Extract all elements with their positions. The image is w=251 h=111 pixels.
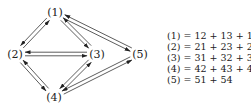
- node-4: (4): [46, 91, 62, 104]
- equation-2: (2) = 21 + 23 + 24: [167, 41, 251, 52]
- state-graph: (1)(2)(3)(4)(5): [0, 0, 160, 111]
- node-3: (3): [89, 48, 105, 61]
- edge-5-to-4-arrow: [62, 57, 130, 91]
- node-5: (5): [132, 48, 148, 61]
- edge-2-to-1-arrow: [23, 20, 49, 48]
- edge-1-to-2-arrow: [21, 18, 47, 46]
- edge-3-to-1-arrow: [63, 18, 91, 46]
- edge-4-to-2-arrow: [23, 60, 49, 88]
- edge-3-to-4-arrow: [60, 60, 89, 89]
- equation-list: (1) = 12 + 13 + 15 (2) = 21 + 23 + 24 (3…: [167, 30, 251, 85]
- edge-4-to-3-arrow: [62, 62, 91, 91]
- equation-5: (5) = 51 + 54: [167, 74, 251, 85]
- edges-group: [20, 15, 131, 94]
- equation-3: (3) = 31 + 32 + 34: [167, 52, 251, 63]
- equation-4: (4) = 42 + 43 + 45: [167, 63, 251, 74]
- equation-1: (1) = 12 + 13 + 15: [167, 30, 251, 41]
- edge-4-to-5-arrow: [64, 60, 132, 94]
- edge-5-to-1-arrow: [65, 15, 132, 48]
- edge-2-to-4-arrow: [20, 63, 46, 91]
- node-2: (2): [7, 48, 23, 61]
- node-1: (1): [47, 6, 63, 19]
- edge-1-to-5-arrow: [63, 18, 130, 51]
